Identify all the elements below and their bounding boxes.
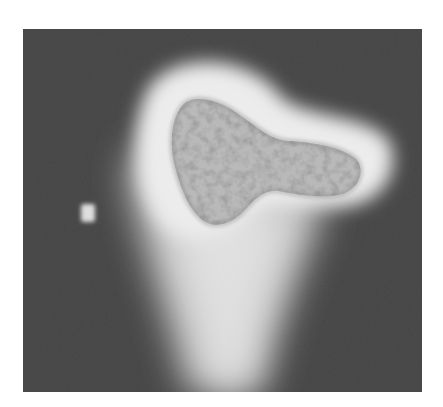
bright-fleck [81,204,95,222]
micrograph-svg [23,29,422,392]
micrograph-image [23,29,422,392]
